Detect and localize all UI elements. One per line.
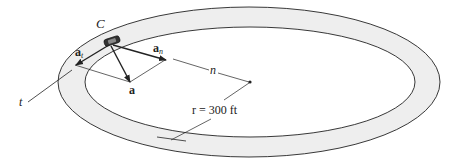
tangential-accel-label: at bbox=[75, 46, 83, 60]
diagram-drawing bbox=[0, 0, 453, 165]
normal-accel-label: an bbox=[153, 42, 163, 56]
radius-label: r = 300 ft bbox=[192, 104, 237, 116]
tangential-accel-subscript: t bbox=[81, 51, 83, 60]
car-label: C bbox=[96, 17, 105, 30]
track-diagram: C at an a t n r = 300 ft bbox=[0, 0, 453, 165]
normal-axis-label: n bbox=[210, 64, 216, 76]
normal-accel-subscript: n bbox=[159, 47, 163, 56]
total-accel-label: a bbox=[129, 84, 135, 96]
tangent-axis-label: t bbox=[19, 96, 22, 108]
